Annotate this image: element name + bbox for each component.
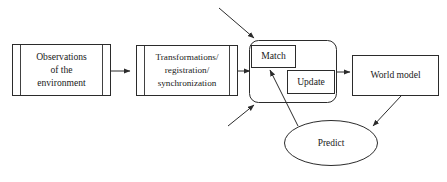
observations-label-line3: environment — [37, 77, 86, 88]
world-model-label: World model — [370, 69, 420, 80]
node-predict[interactable]: Predict — [285, 121, 378, 166]
node-update[interactable]: Update — [288, 71, 335, 94]
transformations-label-line1: Transformations/ — [156, 52, 219, 62]
node-world-model[interactable]: World model — [353, 56, 439, 96]
transformations-label-line2: registration/ — [165, 65, 210, 75]
diagram-canvas: Observations of the environment Transfor… — [0, 0, 447, 182]
predict-label: Predict — [318, 138, 345, 148]
connector-external-input-top — [219, 8, 254, 38]
update-label: Update — [297, 76, 325, 87]
match-label: Match — [261, 50, 286, 61]
node-match[interactable]: Match — [252, 46, 296, 68]
flow-diagram: Observations of the environment Transfor… — [0, 0, 447, 182]
transformations-label-line3: synchronization — [158, 78, 217, 88]
node-transformations[interactable]: Transformations/ registration/ synchroni… — [137, 46, 238, 96]
observations-label-line2: of the — [50, 64, 72, 75]
connector-world-model-to-predict — [373, 96, 401, 126]
observations-label-line1: Observations — [36, 51, 87, 62]
connector-external-input-bottom — [228, 105, 254, 126]
node-observations[interactable]: Observations of the environment — [13, 45, 111, 96]
